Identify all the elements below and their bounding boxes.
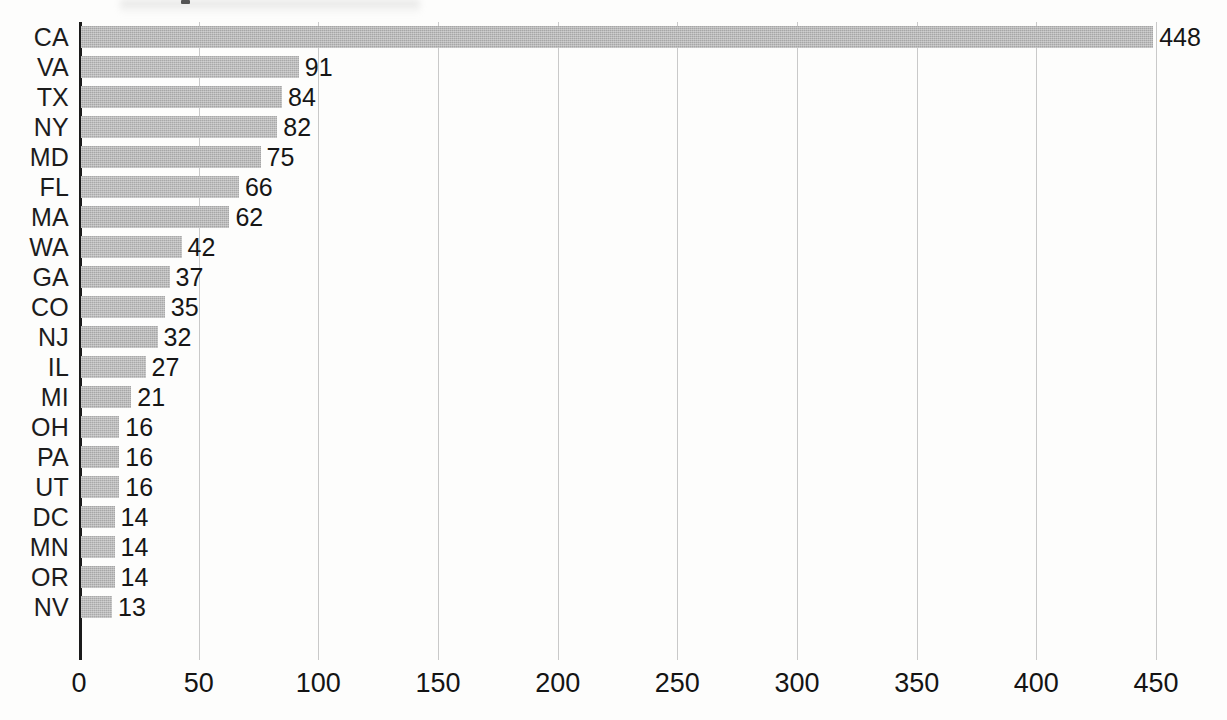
- bar-value-label: 14: [115, 532, 149, 562]
- category-label: OH: [0, 412, 69, 442]
- bar-value-label: 21: [131, 382, 165, 412]
- bar[interactable]: [81, 236, 182, 258]
- bar-value-label: 448: [1153, 22, 1201, 52]
- bar-value-label: 62: [229, 202, 263, 232]
- category-label: IL: [0, 352, 69, 382]
- bar[interactable]: [81, 146, 261, 168]
- bar-row[interactable]: MD75: [79, 142, 1156, 172]
- x-axis-tick-label: 200: [498, 668, 618, 699]
- bar-row[interactable]: NY82: [79, 112, 1156, 142]
- bar[interactable]: [81, 86, 282, 108]
- bar-row[interactable]: PA16: [79, 442, 1156, 472]
- category-label: CA: [0, 22, 69, 52]
- bar-row[interactable]: UT16: [79, 472, 1156, 502]
- category-label: FL: [0, 172, 69, 202]
- bar-row[interactable]: TX84: [79, 82, 1156, 112]
- plot-area: CA448VA91TX84NY82MD75FL66MA62WA42GA37CO3…: [79, 22, 1156, 660]
- bar-value-label: 91: [299, 52, 333, 82]
- bar[interactable]: [81, 536, 115, 558]
- bar-value-label: 84: [282, 82, 316, 112]
- x-axis-tick-label: 0: [19, 668, 139, 699]
- bar-value-label: 27: [146, 352, 180, 382]
- bar-value-label: 16: [119, 442, 153, 472]
- x-axis-tick-label: 350: [857, 668, 977, 699]
- bar-row[interactable]: WA42: [79, 232, 1156, 262]
- bar-value-label: 75: [261, 142, 295, 172]
- bar-row[interactable]: FL66: [79, 172, 1156, 202]
- category-label: MN: [0, 532, 69, 562]
- category-label: WA: [0, 232, 69, 262]
- category-label: GA: [0, 262, 69, 292]
- bar[interactable]: [81, 506, 115, 528]
- category-label: PA: [0, 442, 69, 472]
- bar-row[interactable]: GA37: [79, 262, 1156, 292]
- bar[interactable]: [81, 266, 170, 288]
- bar-value-label: 82: [277, 112, 311, 142]
- bar-row[interactable]: DC14: [79, 502, 1156, 532]
- bar[interactable]: [81, 296, 165, 318]
- category-label: NJ: [0, 322, 69, 352]
- category-label: VA: [0, 52, 69, 82]
- bar-row[interactable]: CO35: [79, 292, 1156, 322]
- bar[interactable]: [81, 116, 277, 138]
- bar-row[interactable]: IL27: [79, 352, 1156, 382]
- category-label: NY: [0, 112, 69, 142]
- category-label: DC: [0, 502, 69, 532]
- scan-artifact-smudge: [120, 0, 420, 14]
- bar-row[interactable]: MI21: [79, 382, 1156, 412]
- bar[interactable]: [81, 596, 112, 618]
- category-label: OR: [0, 562, 69, 592]
- bar-value-label: 16: [119, 412, 153, 442]
- bar-row[interactable]: VA91: [79, 52, 1156, 82]
- category-label: NV: [0, 592, 69, 622]
- bar-value-label: 14: [115, 502, 149, 532]
- bar-value-label: 35: [165, 292, 199, 322]
- bar-row[interactable]: NV13: [79, 592, 1156, 622]
- bar[interactable]: [81, 206, 229, 228]
- x-axis-tick-label: 300: [737, 668, 857, 699]
- bar[interactable]: [81, 26, 1153, 48]
- bar-value-label: 66: [239, 172, 273, 202]
- bar-row[interactable]: OH16: [79, 412, 1156, 442]
- x-axis-tick-label: 400: [976, 668, 1096, 699]
- bar-value-label: 14: [115, 562, 149, 592]
- bar[interactable]: [81, 176, 239, 198]
- bar[interactable]: [81, 446, 119, 468]
- category-label: MD: [0, 142, 69, 172]
- gridline: [1156, 22, 1157, 660]
- bar-row[interactable]: MN14: [79, 532, 1156, 562]
- bar-value-label: 16: [119, 472, 153, 502]
- bar[interactable]: [81, 416, 119, 438]
- bar[interactable]: [81, 566, 115, 588]
- bar[interactable]: [81, 56, 299, 78]
- bar[interactable]: [81, 326, 158, 348]
- x-axis-tick-label: 450: [1096, 668, 1216, 699]
- bar[interactable]: [81, 356, 146, 378]
- bar-row[interactable]: MA62: [79, 202, 1156, 232]
- bar-row[interactable]: NJ32: [79, 322, 1156, 352]
- bar-row[interactable]: CA448: [79, 22, 1156, 52]
- bar-value-label: 32: [158, 322, 192, 352]
- bar-row[interactable]: OR14: [79, 562, 1156, 592]
- x-axis-tick-label: 150: [378, 668, 498, 699]
- x-axis-tick-label: 250: [617, 668, 737, 699]
- bar[interactable]: [81, 476, 119, 498]
- bar-value-label: 37: [170, 262, 204, 292]
- x-axis-tick-label: 100: [258, 668, 378, 699]
- category-label: UT: [0, 472, 69, 502]
- bar-chart-figure: CA448VA91TX84NY82MD75FL66MA62WA42GA37CO3…: [0, 0, 1227, 720]
- category-label: CO: [0, 292, 69, 322]
- category-label: MA: [0, 202, 69, 232]
- category-label: TX: [0, 82, 69, 112]
- bar-value-label: 13: [112, 592, 146, 622]
- category-label: MI: [0, 382, 69, 412]
- x-axis-tick-label: 50: [139, 668, 259, 699]
- bar[interactable]: [81, 386, 131, 408]
- scan-artifact-mark: [181, 0, 190, 4]
- bar-value-label: 42: [182, 232, 216, 262]
